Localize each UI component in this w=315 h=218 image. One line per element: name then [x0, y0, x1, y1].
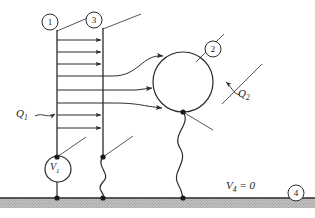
wavy-connection-sphere	[176, 112, 185, 198]
field-lines-between-plates	[57, 40, 101, 128]
charge-q2-label: Q2	[238, 88, 250, 102]
node-label-2: 2	[205, 41, 221, 57]
diagram-vector-layer	[0, 0, 315, 218]
charged-sphere	[153, 52, 213, 112]
node-label-3: 3	[86, 12, 102, 28]
figure-canvas: 1 3 2 4 Q1 Q2 V1 V4 = 0	[0, 0, 315, 218]
node-label-4: 4	[288, 185, 304, 201]
node-label-1: 1	[42, 14, 58, 30]
ground-plane	[0, 198, 315, 208]
wavy-connection-plate3	[100, 157, 106, 198]
terminal-dots	[54, 109, 185, 200]
charge-q1-leader	[35, 114, 55, 116]
voltage-source-label: V1	[50, 162, 60, 175]
charge-q1-label: Q1	[16, 108, 28, 122]
ground-potential-label: V4 = 0	[226, 180, 255, 194]
